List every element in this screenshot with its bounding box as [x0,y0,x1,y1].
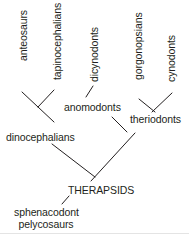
branch-dicynodonts [86,86,93,97]
label-anomodonts: anomodonts [64,101,121,113]
label-anteosaurs: anteosaurs [17,10,29,61]
branch-dinocephalians [52,144,95,177]
label-theriodonts: theriodonts [130,113,181,125]
label-outgroup-line1: sphenacodont [14,206,78,218]
label-gorgonopsians: gorgonopsians [132,12,144,80]
bottom-divider [0,233,189,234]
label-outgroup-line2: pelycosaurs [14,218,78,230]
cladogram: anteosaurs tapinocephalians dicynodonts … [0,0,189,236]
branch-anomodonts [112,117,127,132]
label-dinocephalians: dinocephalians [6,131,75,143]
label-dicynodonts: dicynodonts [88,27,100,82]
branch-cynodonts [152,93,172,112]
label-therapsids: THERAPSIDS [68,184,134,196]
label-outgroup: sphenacodont pelycosaurs [14,206,78,230]
label-cynodonts: cynodonts [165,35,177,82]
branch-tapinocephalians [38,90,54,107]
branch-outgroup [62,196,69,204]
label-tapinocephalians: tapinocephalians [51,3,63,80]
branch-gorgonopsians [139,99,155,112]
branch-theriodonts [91,133,135,181]
